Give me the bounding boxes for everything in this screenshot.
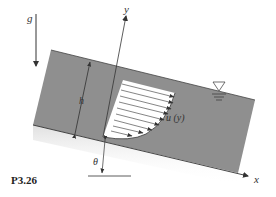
y-axis-label: y	[123, 3, 129, 15]
x-axis-label: x	[253, 173, 259, 185]
profile-label: u (y)	[166, 112, 185, 124]
angle-label: θ	[93, 156, 98, 167]
depth-label: h	[79, 95, 84, 106]
inclined-flow-diagram: y x g h u (y) θ P3.26	[0, 0, 276, 197]
gravity-label: g	[27, 12, 33, 24]
figure-number: P3.26	[11, 174, 37, 186]
